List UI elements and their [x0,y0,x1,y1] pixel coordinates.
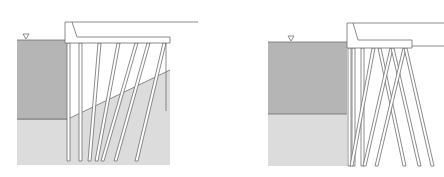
diagram-figure [0,0,444,177]
pile [348,48,351,166]
water-region-left [17,40,67,120]
pile [391,48,421,166]
pile [67,43,70,161]
pile [79,43,82,161]
right-panel [268,23,444,166]
left-panel [17,22,198,165]
deck-right [347,23,444,48]
seabed-soil-right [268,114,347,166]
water-region-right [268,42,347,114]
water-level-icon [288,36,294,41]
deck-left [65,22,198,43]
water-level-icon [23,34,29,39]
pile [363,48,393,166]
pile-group-right [348,48,434,166]
pile [404,48,434,166]
